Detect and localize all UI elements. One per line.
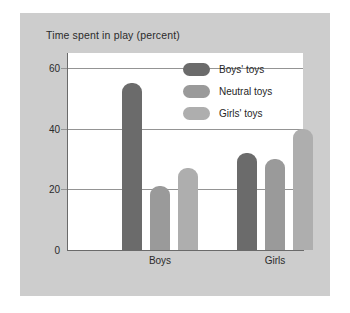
legend-swatch-icon [183,85,210,98]
chart-legend: Boys' toysNeutral toysGirls' toys [183,59,272,125]
legend-label: Boys' toys [219,64,264,75]
y-axis-tick-label: 40 [20,123,60,134]
bar [293,129,313,250]
y-axis-tick-label: 20 [20,184,60,195]
bar [150,186,170,250]
y-axis-tick-label: 60 [20,63,60,74]
y-axis-line [67,53,68,251]
legend-item[interactable]: Boys' toys [183,59,272,79]
bar [178,168,198,250]
chart-title: Time spent in play (percent) [46,29,180,41]
legend-label: Neutral toys [219,86,272,97]
bar [122,83,142,250]
legend-swatch-icon [183,107,210,120]
chart-figure: Time spent in play (percent) 0204060 Boy… [0,0,350,313]
bar [265,159,285,250]
legend-item[interactable]: Neutral toys [183,81,272,101]
legend-swatch-icon [183,63,210,76]
y-axis-tick-label: 0 [20,245,60,256]
x-axis-tick-label: Boys [120,255,200,266]
legend-label: Girls' toys [219,108,263,119]
legend-item[interactable]: Girls' toys [183,103,272,123]
bar [237,153,257,250]
gridline [68,129,303,130]
x-axis-tick-label: Girls [235,255,315,266]
x-axis-line [67,250,304,251]
